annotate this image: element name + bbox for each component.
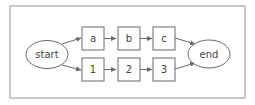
node-1-label: 1 [90, 64, 96, 75]
node-end: end [188, 40, 230, 68]
node-start: start [26, 41, 68, 69]
node-b-label: b [126, 33, 132, 44]
node-3-label: 3 [161, 64, 167, 75]
node-a: a [82, 27, 104, 50]
node-start-label: start [35, 49, 58, 60]
node-c-label: c [161, 33, 167, 44]
node-c: c [153, 27, 175, 50]
node-a-label: a [90, 33, 96, 44]
node-2-label: 2 [126, 64, 132, 75]
node-2: 2 [118, 58, 140, 81]
node-b: b [118, 27, 140, 50]
flowchart-diagram: start a b c 1 2 3 end [0, 0, 255, 105]
node-end-label: end [200, 49, 219, 60]
node-3: 3 [153, 58, 175, 81]
node-1: 1 [82, 58, 104, 81]
